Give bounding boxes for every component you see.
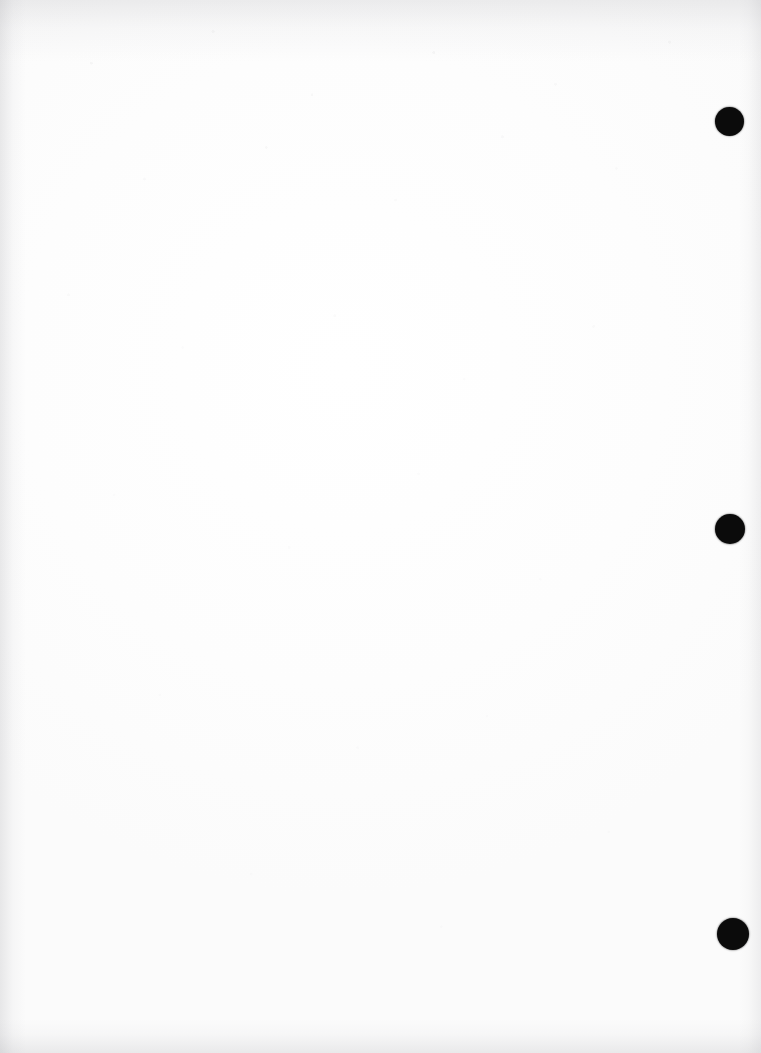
scan-edge-shading-top	[0, 0, 761, 62]
hole-mark-middle	[715, 514, 745, 544]
hole-mark-bottom	[717, 918, 749, 950]
scan-edge-shading-left	[0, 0, 26, 1053]
scanned-page	[0, 0, 761, 1053]
scan-edge-shading-bottom	[0, 1019, 761, 1053]
page-body-text	[60, 60, 701, 993]
hole-mark-top	[715, 107, 744, 136]
